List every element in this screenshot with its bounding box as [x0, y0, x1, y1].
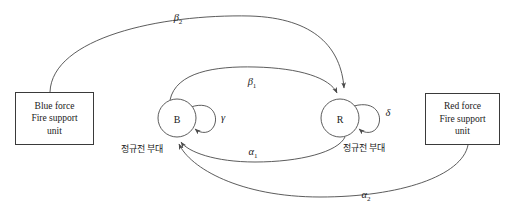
- edge-label-alpha1: α1: [248, 146, 257, 160]
- edge-label-beta1: β1: [248, 76, 257, 90]
- blue-force-box-line-2: Fire support: [31, 112, 77, 125]
- edge-label-beta1-sub: 1: [253, 82, 257, 90]
- blue-node-label: B: [174, 114, 181, 125]
- edge-label-alpha2-sub: 2: [367, 195, 371, 203]
- edge-label-gamma: γ: [221, 112, 225, 126]
- red-node-caption: 정규전 부대: [343, 141, 386, 154]
- red-node-label: R: [337, 114, 344, 125]
- edge-label-delta-symbol: δ: [386, 107, 391, 118]
- red-force-fire-support-unit-box: Red force Fire support unit: [425, 93, 500, 145]
- edge-alpha1-path: [181, 137, 345, 162]
- blue-node-caption: 정규전 부대: [121, 142, 164, 155]
- edge-beta2-path: [50, 16, 344, 92]
- red-force-box-line-3: unit: [455, 125, 470, 138]
- edge-label-alpha1-sub: 1: [254, 152, 258, 160]
- blue-force-fire-support-unit-box: Blue force Fire support unit: [15, 92, 94, 145]
- edge-label-beta2-sub: 2: [179, 18, 183, 26]
- blue-force-box-line-3: unit: [47, 125, 62, 138]
- edge-label-gamma-symbol: γ: [221, 112, 225, 123]
- red-force-box-line-1: Red force: [444, 100, 481, 113]
- edge-label-alpha2: α2: [361, 189, 370, 203]
- blue-force-box-line-1: Blue force: [35, 100, 75, 113]
- edge-label-beta2: β2: [174, 12, 183, 26]
- edge-label-delta: δ: [386, 107, 391, 121]
- red-force-box-line-2: Fire support: [439, 113, 485, 126]
- diagram-canvas: Blue force Fire support unit Red force F…: [0, 0, 511, 212]
